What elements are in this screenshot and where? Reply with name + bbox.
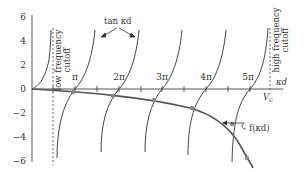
y-tick-2: 2	[20, 60, 26, 70]
f-kd-curve	[32, 89, 253, 168]
y-tick-6: 6	[20, 12, 26, 22]
low-frequency-cutoff-label: low frequency cutoff	[53, 29, 72, 90]
y-tick-neg6: −6	[13, 156, 27, 166]
x-tick-3pi: 3π	[156, 72, 168, 82]
chart: 6 4 2 0 −2 −4 −6 π 2π 3π 4π 5π low frequ…	[0, 0, 308, 172]
vc-label: Vc	[263, 92, 273, 104]
svg-text:cutoff: cutoff	[280, 27, 290, 53]
x-tick-labels: π 2π 3π 4π 5π	[72, 72, 254, 82]
x-tick-4pi: 4π	[200, 72, 212, 82]
y-tick-neg4: −4	[13, 132, 27, 142]
x-tick-2pi: 2π	[113, 72, 125, 82]
y-tick-labels: 6 4 2 0 −2 −4 −6	[13, 12, 27, 166]
x-axis-label: κd	[275, 77, 288, 87]
tan-kd-label: tan κd	[104, 16, 132, 26]
x-tick-pi: π	[72, 72, 78, 82]
y-tick-neg2: −2	[13, 108, 26, 118]
tan-kd-arrows	[101, 28, 135, 37]
svg-text:cutoff: cutoff	[62, 47, 72, 73]
f-kd-label: f(κd)	[249, 123, 270, 133]
x-tick-5pi: 5π	[242, 72, 254, 82]
y-tick-0: 0	[20, 84, 26, 94]
high-frequency-cutoff-label: high frequency cutoff	[271, 7, 290, 72]
chart-svg: 6 4 2 0 −2 −4 −6 π 2π 3π 4π 5π low frequ…	[0, 0, 308, 172]
y-tick-4: 4	[20, 36, 26, 46]
